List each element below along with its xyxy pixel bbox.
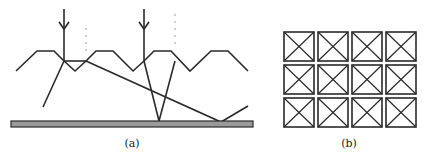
pyramid-cell [284,98,314,127]
pyramid-cell [318,32,348,61]
pyramid-cell [284,32,314,61]
pyramid-cell [386,32,416,61]
pyramid-cell [386,65,416,94]
incident-arrow-2 [139,9,149,61]
incident-arrow-1 [59,9,69,61]
pyramid-cell [352,32,382,61]
refracted-ray-1 [43,61,64,107]
panel-a: (a) [11,9,253,150]
diagram-canvas: (a) (b) [0,0,424,158]
pyramid-cell [386,98,416,127]
pyramid-cell [352,98,382,127]
pyramid-cell [318,65,348,94]
panel-a-label: (a) [124,137,139,150]
pyramid-cell [352,65,382,94]
panel-b [284,32,416,127]
textured-surface [16,51,248,71]
pyramid-cell [284,65,314,94]
bottom-plate [11,121,253,127]
reflected-ray-v [144,61,175,121]
panel-b-label: (b) [341,137,357,150]
pyramid-cell [318,98,348,127]
